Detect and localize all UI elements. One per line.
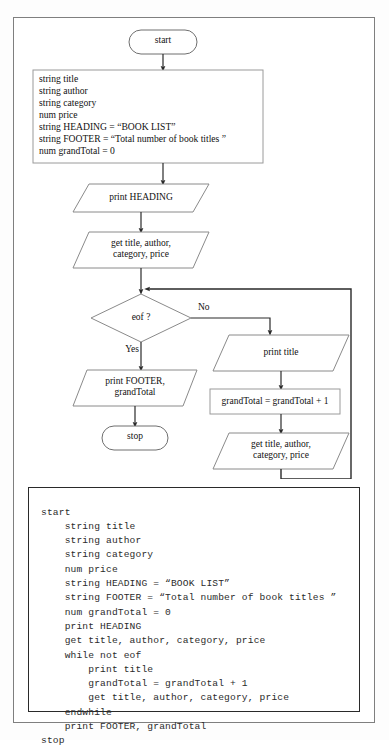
node-eof-shape: [91, 294, 191, 342]
node-print-footer-shape: [73, 370, 197, 406]
node-get-record-2-shape: [213, 433, 349, 469]
pseudocode-text: start string title string author string …: [41, 506, 336, 749]
pseudocode-box: start string title string author string …: [28, 487, 360, 712]
connector-eof-no-to-print-title: [191, 318, 270, 333]
node-stop-shape: [102, 426, 168, 450]
node-declarations-label: string title string author string catego…: [39, 73, 255, 157]
node-get-record-1-shape: [73, 232, 209, 268]
node-start-shape: [129, 30, 197, 54]
node-print-title-shape: [213, 335, 349, 371]
node-print-heading-shape: [73, 184, 209, 212]
flowchart-diagram: string title string author string catego…: [13, 17, 375, 479]
node-increment-shape: [210, 389, 340, 414]
